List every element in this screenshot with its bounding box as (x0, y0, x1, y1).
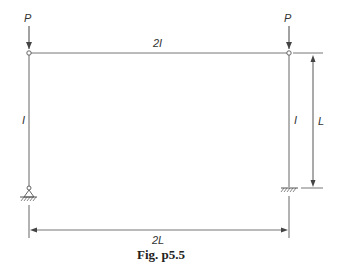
span-dimension (30, 228, 288, 233)
span-label: 2L (151, 234, 164, 246)
left-joint-hinge-icon (27, 51, 31, 55)
frame-diagram: P P 2I I I L 2L Fig (0, 0, 340, 263)
fixed-support-icon (281, 188, 298, 192)
figure-caption: Fig. p5.5 (137, 247, 186, 262)
pinned-support-icon (20, 186, 37, 201)
left-load-label: P (24, 12, 32, 24)
right-joint-hinge-icon (287, 51, 291, 55)
beam-inertia-label: 2I (152, 37, 162, 49)
right-load-label: P (284, 12, 292, 24)
left-column-inertia-label: I (22, 114, 25, 126)
right-column-inertia-label: I (294, 114, 297, 126)
column-height-label: L (318, 115, 324, 127)
